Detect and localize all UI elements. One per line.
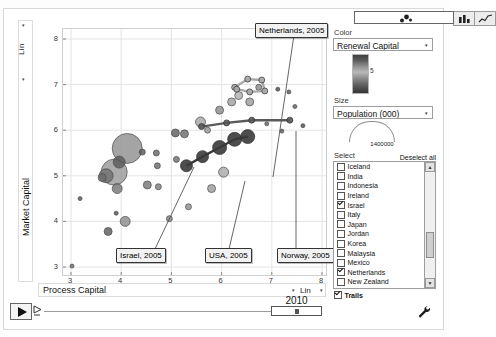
trail-bubble[interactable] [247,89,253,95]
country-checkbox[interactable] [337,220,345,228]
y-axis-title-wrap[interactable]: Market Capital [18,150,33,270]
data-bubble[interactable] [154,163,160,169]
data-bubble[interactable] [256,84,262,90]
data-bubble[interactable] [78,197,82,201]
data-bubble[interactable] [293,104,297,108]
y-axis-scale-select[interactable]: Lin [17,26,34,72]
data-bubble[interactable] [219,167,229,177]
data-bubble[interactable] [98,174,106,182]
trail-bubble[interactable] [228,132,242,146]
country-list-item[interactable]: Mexico [334,258,424,268]
country-list-item[interactable]: Korea [334,239,424,249]
country-list-scrollbar[interactable]: ▲ ▼ [424,162,435,288]
data-bubble[interactable] [208,185,216,193]
line-chart-icon[interactable] [474,11,496,26]
data-bubble[interactable] [70,264,74,268]
country-checkbox[interactable] [337,268,345,276]
annotation-callout[interactable]: Netherlands, 2005 [255,23,328,38]
trails-checkbox-row[interactable]: Trails [333,291,438,299]
trail-bubble[interactable] [262,88,268,94]
data-bubble[interactable] [112,184,122,194]
country-list-item[interactable]: Iceland [334,162,424,172]
country-list-item[interactable]: India [334,172,424,182]
country-list-item[interactable]: Netherlands [334,268,424,278]
data-bubble[interactable] [228,98,236,106]
country-list-item[interactable]: Jordan [334,229,424,239]
annotation-callout[interactable]: Israel, 2005 [116,248,166,263]
data-bubble[interactable] [205,127,211,133]
data-bubble[interactable] [216,106,224,114]
country-list-item[interactable]: New Zealand [334,277,424,287]
scroll-down-icon[interactable]: ▼ [425,278,435,288]
trail-bubble[interactable] [245,76,251,82]
country-checkbox[interactable] [337,211,345,219]
bar-chart-icon[interactable] [453,11,475,26]
play-button[interactable] [10,303,32,320]
annotation-callout[interactable]: Norway, 2005 [277,248,334,263]
y-axis-title[interactable]: Market Capital [21,147,31,267]
data-bubble[interactable] [104,227,112,235]
data-bubble[interactable] [171,129,179,137]
data-bubble[interactable] [180,130,188,138]
data-bubble[interactable] [235,92,243,100]
data-bubble[interactable] [185,204,191,210]
trail-bubble[interactable] [241,130,255,144]
trail-bubble[interactable] [180,160,192,172]
country-list[interactable]: IcelandIndiaIndonesiaIrelandIsraelItalyJ… [333,161,436,289]
data-bubble[interactable] [139,149,145,155]
x-axis-scale-select[interactable]: Lin [300,286,311,295]
country-checkbox[interactable] [337,172,345,180]
country-list-item[interactable]: Norway [334,287,424,289]
country-checkbox[interactable] [337,163,345,171]
trail-bubble[interactable] [199,124,205,130]
playback-speed-icon[interactable] [33,305,43,317]
country-checkbox[interactable] [337,249,345,257]
trails-checkbox[interactable] [334,291,342,299]
data-bubble[interactable] [173,156,179,162]
country-checkbox[interactable] [337,192,345,200]
color-variable-select[interactable]: Renewal Capital ▾ [333,38,433,51]
country-list-item[interactable]: Indonesia [334,181,424,191]
scroll-up-icon[interactable]: ▲ [425,162,435,172]
trail-bubble[interactable] [197,151,209,163]
data-bubble[interactable] [114,211,118,215]
annotation-callout[interactable]: USA, 2005 [205,248,252,263]
country-list-item[interactable]: Israel [334,200,424,210]
data-bubble[interactable] [301,124,305,128]
country-checkbox[interactable] [337,230,345,238]
trail-bubble[interactable] [287,117,293,123]
country-list-item[interactable]: Japan [334,220,424,230]
country-list-item[interactable]: Italy [334,210,424,220]
country-checkbox[interactable] [337,201,345,209]
data-bubble[interactable] [276,87,280,91]
data-bubble[interactable] [153,150,159,156]
country-checkbox[interactable] [337,278,345,286]
country-list-item[interactable]: Malaysia [334,248,424,258]
x-axis-title[interactable]: Process Capital [43,285,106,295]
timeline-handle[interactable] [271,306,322,316]
data-bubble[interactable] [155,184,161,190]
bubble-chart-icon[interactable] [354,11,454,24]
trail-bubble[interactable] [224,120,230,126]
scrollbar-thumb[interactable] [426,232,434,258]
country-checkbox[interactable] [337,240,345,248]
x-axis-scale-caret-icon[interactable]: ▾ [320,287,323,293]
bubble-plot-area[interactable] [62,28,327,276]
data-bubble[interactable] [287,90,291,94]
data-bubble[interactable] [113,156,125,168]
wrench-settings-icon[interactable] [416,304,432,320]
data-bubble[interactable] [265,122,269,126]
size-variable-select[interactable]: Population (000) ▾ [333,106,433,119]
data-bubble[interactable] [143,181,151,189]
country-list-item[interactable]: Ireland [334,191,424,201]
trail-bubble[interactable] [259,77,265,83]
data-bubble[interactable] [120,216,130,226]
trail-bubble[interactable] [213,141,227,155]
trail-bubble[interactable] [234,86,240,92]
trail-bubble[interactable] [249,117,255,123]
deselect-all-link[interactable]: Deselect all [400,154,436,161]
data-bubble[interactable] [246,98,254,106]
y-axis-caret-down-icon[interactable]: ▾ [22,76,25,82]
country-checkbox[interactable] [337,182,345,190]
x-axis-caret-icon[interactable]: ▾ [292,287,295,293]
